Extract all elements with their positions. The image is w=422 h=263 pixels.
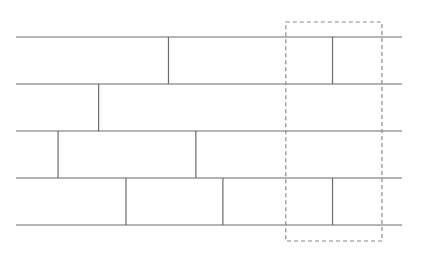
brick-pattern-diagram xyxy=(0,0,422,263)
